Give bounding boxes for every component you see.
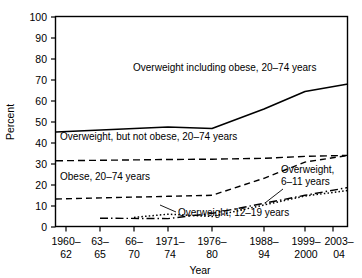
obese-adults-label: Obese, 20–74 years [60, 171, 150, 182]
x-tick-label-bottom: 2000 [294, 248, 318, 260]
x-tick-label-top: 1971– [155, 235, 184, 247]
x-tick-label-bottom: 80 [206, 248, 218, 260]
overweight-12-19-leader-line [160, 205, 176, 212]
overweight-12-19-label: Overweight, 12–19 years [178, 207, 289, 218]
overweight-not-obese-label: Overweight, but not obese, 20–74 years [60, 131, 237, 142]
y-tick-label: 50 [35, 116, 47, 128]
overweight-6-11-label-line2: 6–11 years [281, 176, 330, 187]
overweight-including-obese-label: Overweight including obese, 20–74 years [133, 62, 316, 73]
x-axis-title: Year [189, 264, 211, 276]
y-tick-label: 60 [35, 95, 47, 107]
y-tick-label: 80 [35, 53, 47, 65]
x-tick-label-top: 63– [91, 235, 109, 247]
line-chart: 100 90 80 70 60 50 40 30 20 10 0 Percent [0, 0, 362, 278]
y-tick-label: 100 [29, 11, 47, 23]
chart-container: 100 90 80 70 60 50 40 30 20 10 0 Percent [0, 0, 362, 278]
x-tick-label-top: 2003– [324, 235, 353, 247]
y-tick-label: 20 [35, 179, 47, 191]
y-axis-tick-labels: 100 90 80 70 60 50 40 30 20 10 0 [29, 11, 47, 233]
x-tick-label-top: 66– [125, 235, 143, 247]
x-tick-label-top: 1988– [249, 235, 278, 247]
x-tick-label-bottom: 62 [60, 248, 72, 260]
x-tick-label-bottom: 70 [128, 248, 140, 260]
x-axis-ticks [66, 227, 333, 232]
x-tick-label-top: 1960– [51, 235, 80, 247]
x-tick-label-top: 1999– [291, 235, 320, 247]
x-tick-label-bottom: 94 [258, 248, 270, 260]
y-tick-label: 30 [35, 158, 47, 170]
y-tick-label: 70 [35, 74, 47, 86]
y-tick-label: 0 [41, 221, 47, 233]
x-tick-label-bottom: 65 [94, 248, 106, 260]
x-tick-label-top: 1976– [197, 235, 226, 247]
overweight-6-11-label-line1: Overweight, [281, 164, 334, 175]
x-axis-tick-labels: 1960– 62 63– 65 66– 70 1971– 74 1976– 80… [51, 235, 353, 260]
y-axis-title: Percent [4, 104, 16, 140]
x-tick-label-bottom: 74 [164, 248, 176, 260]
y-tick-label: 90 [35, 32, 47, 44]
y-tick-label: 10 [35, 200, 47, 212]
x-tick-label-bottom: 04 [333, 248, 345, 260]
series-line-overweight-not-obese [56, 155, 348, 160]
series-line-overweight-including-obese [56, 84, 348, 132]
y-tick-label: 40 [35, 137, 47, 149]
